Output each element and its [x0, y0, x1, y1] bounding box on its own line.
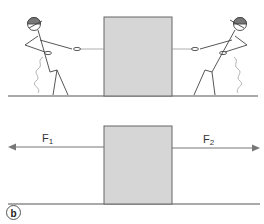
- panel-label: b: [6, 205, 21, 220]
- top-scene: [8, 17, 258, 96]
- diagram-canvas: [0, 0, 264, 224]
- tug-of-war-diagram: F1 F2 b: [0, 0, 264, 224]
- force-label-f2: F2: [203, 134, 214, 147]
- right-person-icon: [192, 18, 248, 96]
- left-person-icon: [25, 18, 81, 96]
- force-arrow-f1: [8, 144, 104, 151]
- box-top: [104, 17, 172, 96]
- force-arrow-f2: [172, 145, 260, 152]
- force-label-f1: F1: [42, 133, 53, 146]
- box-bottom: [104, 126, 172, 204]
